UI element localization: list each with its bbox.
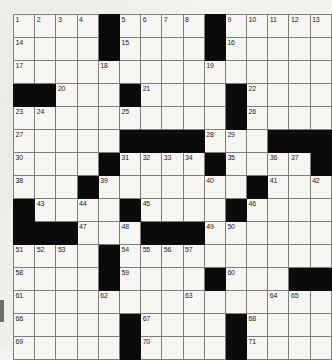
crossword-cell[interactable] [183,107,204,130]
crossword-cell[interactable] [310,222,331,245]
crossword-cell[interactable]: 44 [77,199,98,222]
crossword-cell[interactable]: 29 [225,130,246,153]
crossword-cell[interactable] [204,199,225,222]
crossword-cell[interactable] [162,61,183,84]
crossword-cell[interactable] [141,107,162,130]
crossword-cell[interactable] [268,268,289,291]
crossword-cell[interactable]: 4 [77,15,98,38]
crossword-cell[interactable] [35,291,56,314]
crossword-cell[interactable] [35,130,56,153]
crossword-cell[interactable]: 54 [119,245,140,268]
crossword-cell[interactable]: 64 [268,291,289,314]
crossword-cell[interactable] [77,130,98,153]
crossword-cell[interactable]: 10 [247,15,268,38]
crossword-cell[interactable]: 53 [56,245,77,268]
crossword-cell[interactable] [162,38,183,61]
crossword-cell[interactable] [183,176,204,199]
crossword-cell[interactable] [35,337,56,360]
crossword-cell[interactable] [289,84,310,107]
crossword-cell[interactable] [77,107,98,130]
crossword-cell[interactable]: 39 [98,176,119,199]
crossword-cell[interactable]: 6 [141,15,162,38]
crossword-cell[interactable] [77,314,98,337]
crossword-cell[interactable] [98,130,119,153]
crossword-cell[interactable]: 36 [268,153,289,176]
crossword-cell[interactable] [289,61,310,84]
crossword-cell[interactable] [310,38,331,61]
crossword-cell[interactable]: 66 [14,314,35,337]
crossword-cell[interactable] [204,337,225,360]
crossword-cell[interactable]: 50 [225,222,246,245]
crossword-cell[interactable] [225,176,246,199]
crossword-cell[interactable] [56,199,77,222]
crossword-cell[interactable] [162,314,183,337]
crossword-cell[interactable]: 26 [247,107,268,130]
crossword-cell[interactable] [289,199,310,222]
crossword-cell[interactable] [162,84,183,107]
crossword-cell[interactable] [119,61,140,84]
crossword-cell[interactable] [141,61,162,84]
crossword-cell[interactable]: 8 [183,15,204,38]
crossword-cell[interactable] [77,153,98,176]
crossword-cell[interactable] [225,61,246,84]
crossword-cell[interactable]: 67 [141,314,162,337]
crossword-cell[interactable] [56,107,77,130]
crossword-cell[interactable] [289,337,310,360]
crossword-cell[interactable] [77,245,98,268]
crossword-cell[interactable] [141,268,162,291]
crossword-cell[interactable]: 42 [310,176,331,199]
crossword-cell[interactable]: 52 [35,245,56,268]
crossword-cell[interactable] [141,176,162,199]
crossword-cell[interactable] [268,107,289,130]
crossword-cell[interactable] [268,84,289,107]
crossword-cell[interactable]: 71 [247,337,268,360]
crossword-cell[interactable] [183,61,204,84]
crossword-cell[interactable]: 65 [289,291,310,314]
crossword-cell[interactable]: 30 [14,153,35,176]
crossword-cell[interactable] [225,291,246,314]
crossword-cell[interactable] [162,337,183,360]
crossword-cell[interactable]: 35 [225,153,246,176]
crossword-cell[interactable] [268,314,289,337]
crossword-cell[interactable]: 5 [119,15,140,38]
crossword-cell[interactable] [56,337,77,360]
crossword-cell[interactable] [183,199,204,222]
crossword-cell[interactable]: 27 [14,130,35,153]
crossword-cell[interactable]: 56 [162,245,183,268]
crossword-cell[interactable] [247,130,268,153]
crossword-cell[interactable]: 31 [119,153,140,176]
crossword-cell[interactable]: 17 [14,61,35,84]
crossword-cell[interactable]: 40 [204,176,225,199]
crossword-cell[interactable] [35,314,56,337]
crossword-cell[interactable] [183,38,204,61]
crossword-cell[interactable]: 24 [35,107,56,130]
crossword-cell[interactable]: 62 [98,291,119,314]
crossword-cell[interactable] [183,268,204,291]
crossword-cell[interactable] [310,107,331,130]
crossword-cell[interactable] [162,176,183,199]
crossword-cell[interactable] [310,245,331,268]
crossword-cell[interactable] [56,268,77,291]
crossword-cell[interactable] [289,107,310,130]
crossword-cell[interactable]: 21 [141,84,162,107]
crossword-cell[interactable] [77,84,98,107]
crossword-cell[interactable] [98,199,119,222]
crossword-cell[interactable]: 15 [119,38,140,61]
crossword-cell[interactable] [247,153,268,176]
crossword-cell[interactable] [98,314,119,337]
crossword-cell[interactable] [35,176,56,199]
crossword-cell[interactable]: 3 [56,15,77,38]
crossword-cell[interactable]: 22 [247,84,268,107]
crossword-cell[interactable] [162,291,183,314]
crossword-cell[interactable]: 9 [225,15,246,38]
crossword-cell[interactable] [310,314,331,337]
crossword-cell[interactable] [119,176,140,199]
crossword-cell[interactable]: 12 [289,15,310,38]
crossword-cell[interactable] [225,245,246,268]
crossword-cell[interactable] [56,61,77,84]
crossword-cell[interactable]: 61 [14,291,35,314]
crossword-cell[interactable] [310,84,331,107]
crossword-cell[interactable] [35,61,56,84]
crossword-cell[interactable] [204,245,225,268]
crossword-cell[interactable] [141,38,162,61]
